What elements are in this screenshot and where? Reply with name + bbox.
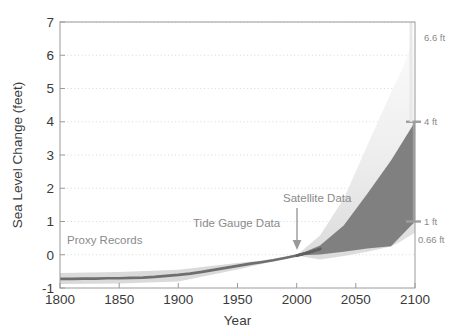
y-tick-label: 1	[46, 214, 54, 229]
y-axis-title: Sea Level Change (feet)	[10, 82, 25, 228]
low-scenario-label: 1 ft	[424, 216, 438, 227]
y-tick-label: 5	[46, 81, 54, 96]
y-tick-label: 4	[46, 114, 54, 129]
proxy-records-label: Proxy Records	[67, 234, 143, 246]
y-tick-label: 0	[46, 248, 54, 263]
x-tick-label: 1800	[45, 292, 75, 307]
upper-extreme-label: 6.6 ft	[424, 32, 445, 43]
x-axis-title: Year	[224, 313, 252, 328]
tide-gauge-label: Tide Gauge Data	[193, 217, 281, 229]
x-tick-label: 2100	[400, 292, 430, 307]
sea-level-chart-figure: 7 6 5 4 3 2 1 0 -1 1800 1850 1900 1950 2…	[0, 0, 473, 331]
chart-canvas: 7 6 5 4 3 2 1 0 -1 1800 1850 1900 1950 2…	[0, 0, 473, 331]
y-tick-labels: 7 6 5 4 3 2 1 0 -1	[42, 15, 55, 296]
y-tick-label: 6	[46, 48, 54, 63]
y-tick-label: 3	[46, 148, 54, 163]
x-tick-labels: 1800 1850 1900 1950 2000 2050 2100	[45, 292, 430, 307]
y-tick-label: 2	[46, 181, 54, 196]
x-tick-label: 1900	[163, 292, 193, 307]
satellite-data-label: Satellite Data	[283, 192, 352, 204]
x-tick-label: 2050	[341, 292, 371, 307]
lower-extreme-label: 0.66 ft	[418, 234, 445, 245]
x-tick-label: 1850	[104, 292, 134, 307]
high-scenario-label: 4 ft	[424, 116, 438, 127]
y-tick-label: 7	[46, 15, 54, 30]
x-tick-label: 2000	[282, 292, 312, 307]
x-tick-label: 1950	[222, 292, 252, 307]
